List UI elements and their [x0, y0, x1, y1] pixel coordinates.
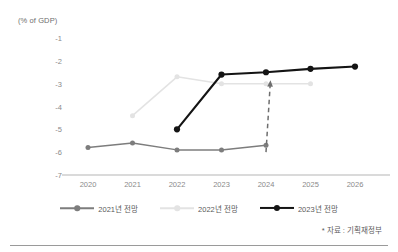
fiscal-balance-line-chart: (% of GDP) -1-2-3-4-5-6-7 20202021202220… [0, 0, 398, 252]
legend-item[interactable]: 2021년 전망 [60, 203, 138, 214]
series-line [177, 67, 355, 130]
series-marker [175, 147, 180, 152]
series-marker [307, 66, 313, 72]
series-marker [218, 71, 224, 77]
series-marker [174, 126, 180, 132]
series-2 [130, 74, 313, 118]
legend-label: 2022년 전망 [198, 203, 238, 214]
series-marker [130, 113, 135, 118]
legend-marker-dot [274, 205, 280, 211]
series-1 [86, 141, 269, 153]
series-marker [130, 141, 135, 146]
legend-label: 2023년 전망 [298, 203, 338, 214]
legend-item[interactable]: 2023년 전망 [260, 203, 338, 214]
series-marker [263, 69, 269, 75]
legend-swatch-icon [260, 203, 294, 213]
series-marker [219, 147, 224, 152]
series-marker [86, 145, 91, 150]
series-marker [352, 63, 358, 69]
legend-swatch-icon [60, 203, 94, 213]
legend-label: 2021년 전망 [98, 203, 138, 214]
source-note: * 자료 : 기획재정부 [322, 224, 382, 235]
annotation-dashed-arrow [266, 80, 273, 152]
legend-swatch-icon [160, 203, 194, 213]
legend-marker-dot [174, 205, 180, 211]
bottom-divider [10, 245, 388, 246]
series-marker [219, 81, 224, 86]
legend-marker-dot [75, 205, 81, 211]
chart-legend: 2021년 전망2022년 전망2023년 전망 [0, 199, 398, 217]
legend-item[interactable]: 2022년 전망 [160, 203, 238, 214]
series-3 [174, 63, 358, 132]
annotation-arrow-shaft [266, 80, 270, 152]
series-marker [175, 74, 180, 79]
series-marker [308, 81, 313, 86]
